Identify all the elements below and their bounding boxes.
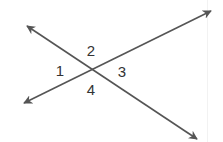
intersecting-lines-diagram: 1 2 3 4 [0, 0, 223, 142]
line-a [24, 11, 211, 103]
angle-label-2: 2 [87, 42, 95, 59]
angle-label-4: 4 [87, 81, 95, 98]
angle-label-3: 3 [118, 63, 126, 80]
angle-label-1: 1 [56, 62, 64, 79]
line-b [27, 26, 197, 139]
